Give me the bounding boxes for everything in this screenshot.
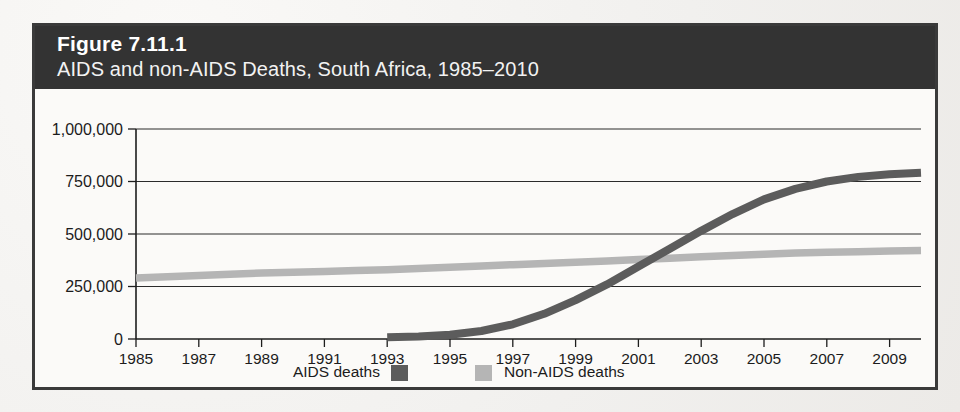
line-chart: 1,000,000 750,000 500,000 250,000 0 1985…	[35, 89, 935, 387]
x-tick-label-2003: 2003	[684, 350, 718, 367]
x-tick-label-2001: 2001	[621, 350, 655, 367]
y-tick-marks	[128, 129, 136, 339]
x-tick-label-1985: 1985	[119, 350, 153, 367]
x-tick-marks	[136, 339, 890, 347]
figure-frame: Figure 7.11.1 AIDS and non-AIDS Deaths, …	[32, 23, 938, 390]
y-tick-label-0: 0	[114, 331, 123, 348]
x-tick-label-2005: 2005	[747, 350, 781, 367]
y-tick-label-250000: 250,000	[65, 278, 123, 295]
x-tick-label-1987: 1987	[182, 350, 216, 367]
figure-number: Figure 7.11.1	[57, 31, 935, 56]
figure-header: Figure 7.11.1 AIDS and non-AIDS Deaths, …	[35, 26, 935, 89]
figure-title: AIDS and non-AIDS Deaths, South Africa, …	[57, 56, 935, 82]
x-tick-label-2007: 2007	[810, 350, 844, 367]
page-background: Figure 7.11.1 AIDS and non-AIDS Deaths, …	[0, 0, 960, 412]
legend-swatch-aids-deaths	[391, 365, 408, 381]
y-tick-label-750000: 750,000	[65, 173, 123, 190]
x-tick-label-1995: 1995	[433, 350, 467, 367]
data-series	[136, 173, 921, 338]
x-tick-label-2009: 2009	[872, 350, 906, 367]
series-line-non-aids-deaths	[136, 251, 921, 279]
y-tick-label-1000000: 1,000,000	[52, 121, 123, 138]
chart-area: 1,000,000 750,000 500,000 250,000 0 1985…	[35, 89, 935, 387]
legend-swatch-non-aids-deaths	[475, 365, 492, 381]
y-tick-label-500000: 500,000	[65, 226, 123, 243]
y-tick-labels: 1,000,000 750,000 500,000 250,000 0	[52, 121, 123, 348]
legend-label-non-aids-deaths: Non-AIDS deaths	[504, 363, 625, 380]
legend-label-aids-deaths: AIDS deaths	[293, 363, 380, 380]
x-tick-label-1989: 1989	[244, 350, 278, 367]
